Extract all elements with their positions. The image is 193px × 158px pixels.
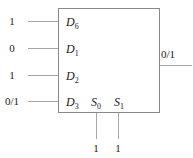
port-label-d3: D3 bbox=[66, 96, 79, 111]
input-wire-1 bbox=[28, 48, 58, 49]
port-subscript-d2: 2 bbox=[75, 76, 79, 85]
port-letter-d0: D bbox=[66, 15, 75, 29]
select-wire-0 bbox=[96, 113, 97, 139]
input-wire-0 bbox=[28, 21, 58, 22]
port-label-d1: D1 bbox=[66, 43, 79, 58]
port-subscript-s1: 1 bbox=[120, 102, 124, 111]
port-letter-d1: D bbox=[66, 42, 75, 56]
port-label-d0: D6 bbox=[66, 16, 79, 31]
port-subscript-d3: 3 bbox=[75, 102, 79, 111]
output-wire bbox=[160, 65, 192, 66]
port-label-s1: S1 bbox=[114, 96, 124, 111]
input-wire-2 bbox=[28, 75, 58, 76]
port-subscript-d0: 6 bbox=[75, 22, 79, 31]
input-value-3: 0/1 bbox=[0, 96, 24, 107]
input-value-2: 1 bbox=[0, 70, 24, 81]
port-subscript-d1: 1 bbox=[75, 49, 79, 58]
select-value-1: 1 bbox=[106, 143, 130, 154]
port-label-s0: S0 bbox=[91, 96, 101, 111]
input-value-1: 0 bbox=[0, 43, 24, 54]
mux-diagram-canvas: 1 0 1 0/1 D6 D1 D2 D3 S0 S1 1 1 0/1 bbox=[0, 0, 193, 158]
input-wire-3 bbox=[28, 101, 58, 102]
port-letter-d2: D bbox=[66, 69, 75, 83]
port-label-d2: D2 bbox=[66, 70, 79, 85]
input-value-0: 1 bbox=[0, 16, 24, 27]
port-letter-d3: D bbox=[66, 95, 75, 109]
select-value-0: 1 bbox=[84, 143, 108, 154]
port-subscript-s0: 0 bbox=[97, 102, 101, 111]
output-value: 0/1 bbox=[161, 49, 191, 60]
select-wire-1 bbox=[118, 113, 119, 139]
